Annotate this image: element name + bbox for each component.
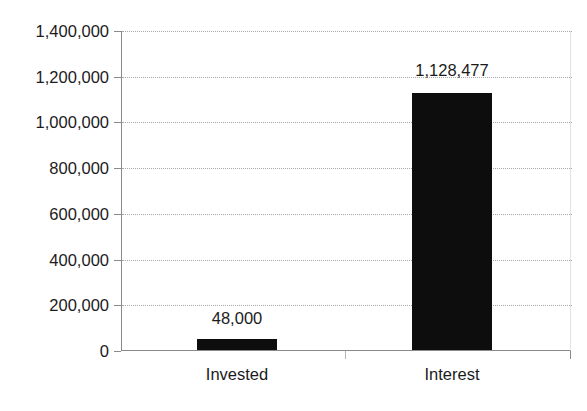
- ytick-mark-1000000: [114, 122, 121, 123]
- bar-interest[interactable]: [412, 93, 492, 350]
- ytick-mark-200000: [114, 305, 121, 306]
- value-label-invested: 48,000: [156, 310, 318, 327]
- ytick-label-1400000: 1,400,000: [0, 23, 109, 40]
- ytick-label-200000: 200,000: [0, 297, 109, 314]
- xtick-label-invested: Invested: [157, 366, 317, 383]
- ytick-mark-600000: [114, 214, 121, 215]
- gridline-800000: [122, 168, 572, 169]
- xtick-mark-end: [570, 351, 571, 359]
- gridline-200000: [122, 305, 572, 306]
- ytick-label-1200000: 1,200,000: [0, 68, 109, 85]
- gridline-1400000: [122, 31, 572, 32]
- bar-invested[interactable]: [197, 339, 277, 350]
- ytick-mark-400000: [114, 260, 121, 261]
- gridline-600000: [122, 214, 572, 215]
- value-label-interest: 1,128,477: [371, 62, 533, 79]
- ytick-label-600000: 600,000: [0, 206, 109, 223]
- ytick-mark-800000: [114, 168, 121, 169]
- ytick-label-800000: 800,000: [0, 160, 109, 177]
- ytick-mark-0: [114, 351, 121, 352]
- plot-area: [121, 31, 571, 351]
- ytick-label-0: 0: [0, 343, 109, 360]
- ytick-label-1000000: 1,000,000: [0, 114, 109, 131]
- xtick-label-interest: Interest: [372, 366, 532, 383]
- gridline-1000000: [122, 122, 572, 123]
- ytick-mark-1400000: [114, 31, 121, 32]
- gridline-400000: [122, 260, 572, 261]
- xtick-mark-separator: [345, 351, 346, 359]
- ytick-mark-1200000: [114, 77, 121, 78]
- bar-chart: 1,400,000 1,200,000 1,000,000 800,000 60…: [0, 0, 587, 411]
- ytick-label-400000: 400,000: [0, 251, 109, 268]
